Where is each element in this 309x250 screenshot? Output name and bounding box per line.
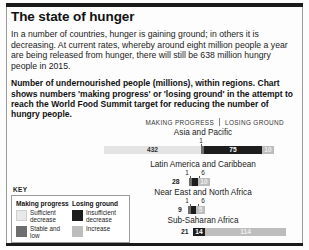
- region-label: Near East and North Africa: [104, 188, 302, 197]
- chart-row-latin-america-and-caribbean: Latin America and Caribbean 1 6 28 10: [104, 160, 302, 186]
- text-block: The state of hunger In a number of count…: [11, 9, 297, 119]
- segment-sufficient-decrease: 432: [104, 146, 201, 154]
- key-item-increase: Increase: [72, 226, 125, 237]
- chart-legend-header: MAKING PROGRESS LOSING GROUND: [136, 118, 302, 126]
- right-border-rule: [302, 7, 303, 243]
- segment-value: 114: [205, 228, 286, 236]
- row-callouts: 1 6: [104, 169, 302, 178]
- key-label: KEY: [13, 186, 27, 193]
- key-column-losing-ground: Losing ground Insufficient decrease Incr…: [72, 200, 125, 242]
- bottom-rule: [6, 243, 303, 246]
- segment-value-outside: 28: [172, 178, 180, 186]
- key-item-sufficient-decrease: Sufficient decrease: [16, 210, 69, 223]
- region-label: Asia and Pacific: [104, 128, 302, 137]
- stacked-bar: 9 5: [104, 206, 302, 214]
- infographic-panel: The state of hunger In a number of count…: [0, 0, 309, 250]
- segment-insufficient-decrease: 75: [204, 146, 262, 154]
- segment-value: 10: [262, 146, 274, 154]
- stacked-bar: 21 14 114: [104, 228, 302, 236]
- region-label: Latin America and Caribbean: [104, 160, 302, 169]
- chart-row-sub-saharan-africa: Sub-Saharan Africa 21 14 114: [104, 216, 302, 236]
- row-callouts: 1 6: [104, 197, 302, 206]
- segment-value: 10: [198, 178, 210, 186]
- stacked-bar: 432 75 10: [104, 146, 302, 154]
- key-column-making-progress: Making progress Sufficient decrease Stab…: [16, 200, 69, 242]
- key-item-label: Stable and low: [30, 226, 69, 239]
- losing-ground-header: LOSING GROUND: [220, 119, 284, 126]
- callout-value: 1: [185, 197, 189, 204]
- segment-increase: 114: [205, 228, 286, 236]
- segment-increase: 10: [262, 146, 274, 154]
- making-progress-header: MAKING PROGRESS: [136, 119, 219, 126]
- chart-row-asia-and-pacific: Asia and Pacific 1 432 75 10: [104, 128, 302, 154]
- stacked-bar: 28 10: [104, 178, 302, 186]
- segment-increase: 10: [198, 178, 210, 186]
- segment-value: 432: [104, 146, 201, 154]
- swatch-insufficient-decrease-icon: [72, 210, 83, 221]
- key-item-stable-and-low: Stable and low: [16, 226, 69, 239]
- page-title: The state of hunger: [11, 9, 297, 24]
- key-column-heading: Making progress: [16, 200, 69, 207]
- segment-value: 75: [204, 146, 262, 154]
- swatch-increase-icon: [72, 226, 83, 237]
- top-rule: [6, 3, 303, 7]
- left-border-rule: [6, 7, 7, 243]
- callout-value: 6: [201, 197, 205, 204]
- row-callouts: 1: [104, 137, 302, 146]
- key-item-insufficient-decrease: Insufficient decrease: [72, 210, 125, 223]
- segment-value-outside: 21: [181, 228, 189, 236]
- segment-stable-and-low: 14: [193, 228, 205, 236]
- key-item-label: Sufficient decrease: [30, 210, 69, 223]
- chart-row-near-east-and-north-africa: Near East and North Africa 1 6 9 5: [104, 188, 302, 214]
- segment-value: 5: [196, 206, 205, 214]
- callout-value: 1: [185, 169, 189, 176]
- segment-value: 14: [193, 228, 205, 236]
- callout-value: 1: [199, 137, 203, 144]
- key-item-label: Insufficient decrease: [86, 210, 125, 223]
- key-column-heading: Losing ground: [72, 200, 125, 207]
- intro-paragraph: In a number of countries, hunger is gain…: [11, 29, 297, 71]
- key-item-label: Increase: [86, 226, 110, 233]
- swatch-stable-and-low-icon: [16, 226, 27, 237]
- segment-value-outside: 9: [178, 206, 182, 214]
- callout-value: 6: [201, 169, 205, 176]
- key-box: Making progress Sufficient decrease Stab…: [11, 195, 130, 243]
- region-label: Sub-Saharan Africa: [104, 216, 302, 225]
- chart-description: Number of undernourished people (million…: [11, 78, 297, 119]
- swatch-sufficient-decrease-icon: [16, 210, 27, 221]
- segment-increase: 5: [196, 206, 205, 214]
